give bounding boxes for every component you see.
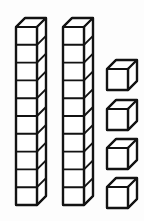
ones-cube-1 (107, 60, 137, 90)
ones-cube-4-front-face (107, 187, 128, 208)
base-ten-blocks-figure: Two rods of ten unit cubes and four sing… (0, 0, 144, 221)
ones-cube-1-front-face (107, 69, 128, 90)
ones-cube-2-front-face (107, 109, 128, 130)
tens-rod-1 (16, 18, 46, 205)
ones-cube-2 (107, 100, 137, 130)
ones-cube-3-front-face (107, 148, 128, 169)
ones-cube-4 (107, 178, 137, 208)
ones-cube-3 (107, 139, 137, 169)
blocks-canvas (0, 0, 144, 221)
tens-rod-2 (63, 18, 93, 205)
